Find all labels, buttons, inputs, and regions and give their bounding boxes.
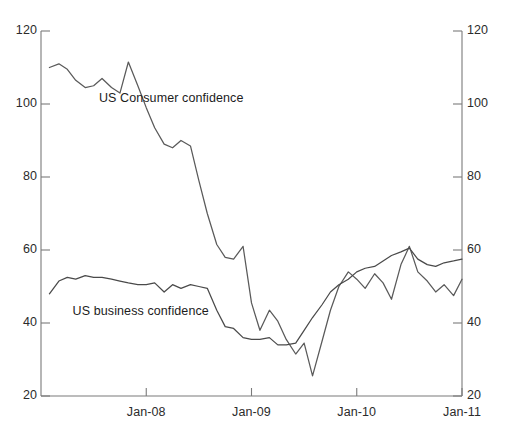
x-axis-label-jan-10: Jan-10 <box>317 405 397 419</box>
chart-axes <box>41 31 462 396</box>
chart-container: 120 100 80 60 40 20 120 100 80 60 40 20 … <box>0 0 515 434</box>
y-axis-left-label-40: 40 <box>0 315 37 329</box>
chart-series <box>49 62 462 376</box>
x-axis-label-jan-08: Jan-08 <box>106 405 186 419</box>
y-axis-right-label-40: 40 <box>467 315 515 329</box>
y-axis-right-label-60: 60 <box>467 242 515 256</box>
y-axis-left-label-60: 60 <box>0 242 37 256</box>
series-label-us-business-confidence: US business confidence <box>73 304 209 318</box>
y-axis-left-label-20: 20 <box>0 388 37 402</box>
y-axis-left-label-120: 120 <box>0 23 37 37</box>
series-label-us-consumer-confidence: US Consumer confidence <box>99 91 244 105</box>
x-axis-label-jan-09: Jan-09 <box>212 405 292 419</box>
y-axis-left-label-80: 80 <box>0 169 37 183</box>
series-line-us-business-confidence <box>49 248 462 345</box>
y-axis-right-label-20: 20 <box>467 388 515 402</box>
y-axis-left-label-100: 100 <box>0 96 37 110</box>
x-axis-label-jan-11: Jan-11 <box>422 405 502 419</box>
y-axis-right-label-80: 80 <box>467 169 515 183</box>
chart-plot-area <box>0 0 515 434</box>
y-axis-right-label-100: 100 <box>467 96 515 110</box>
y-axis-right-label-120: 120 <box>467 23 515 37</box>
series-line-us-consumer-confidence <box>49 62 462 376</box>
